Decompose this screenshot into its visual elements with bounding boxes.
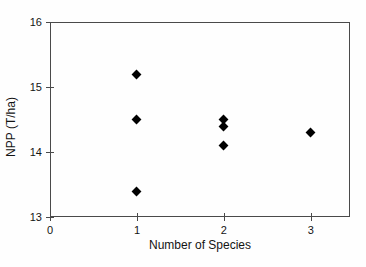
y-axis-tick <box>46 87 54 88</box>
y-tick-label: 13 <box>12 211 42 224</box>
scatter-chart-figure: NPP (T/ha) Number of Species 13141516012… <box>0 0 366 267</box>
x-axis-tick <box>137 213 138 221</box>
y-axis-tick <box>46 152 54 153</box>
x-tick-label: 2 <box>209 224 239 237</box>
x-tick-label: 0 <box>35 224 65 237</box>
y-tick-label: 14 <box>12 146 42 159</box>
plot-area <box>50 22 350 217</box>
y-tick-label: 15 <box>12 81 42 94</box>
x-axis-tick <box>224 213 225 221</box>
x-axis-tick <box>311 213 312 221</box>
y-tick-label: 16 <box>12 16 42 29</box>
x-axis-tick <box>50 213 51 221</box>
y-axis-tick <box>46 22 54 23</box>
x-tick-label: 1 <box>122 224 152 237</box>
x-axis-title: Number of Species <box>50 238 350 252</box>
x-tick-label: 3 <box>296 224 326 237</box>
